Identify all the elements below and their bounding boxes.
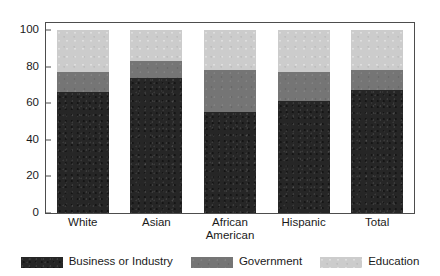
legend-swatch-business [21,257,63,268]
y-tick-label: 20 [26,171,39,183]
bar-segment-business-or-industry [351,90,403,213]
bar-african-american[interactable] [204,30,256,213]
y-tick-mark [46,213,51,214]
legend-swatch-government [191,257,233,268]
y-tick-mark [46,30,51,31]
bar-segment-education [278,30,330,72]
y-tick-label: 40 [26,134,39,146]
y-tick-mark [46,103,51,104]
x-axis-label-line: American [185,229,275,242]
y-axis: 020406080100 [0,30,39,213]
y-tick-mark [46,176,51,177]
bar-segment-education [130,30,182,61]
x-axis-labels: WhiteAsianAfricanAmericanHispanicTotal [46,216,414,250]
bar-segment-education [351,30,403,70]
legend-swatch-education [320,257,362,268]
bar-segment-government [278,72,330,101]
bar-segment-government [351,70,403,90]
bar-segment-government [57,72,109,92]
legend-item[interactable]: Government [191,256,302,268]
y-tick-mark [46,139,51,140]
bar-hispanic[interactable] [278,30,330,213]
bar-segment-business-or-industry [57,92,109,213]
legend-label: Education [368,256,419,268]
bar-white[interactable] [57,30,109,213]
chart-legend: Business or IndustryGovernmentEducation [0,253,440,271]
y-tick-mark [46,66,51,67]
plot-area [46,30,414,213]
legend-label: Business or Industry [69,256,173,268]
y-tick-label: 80 [26,61,39,73]
bar-asian[interactable] [130,30,182,213]
bar-segment-government [130,61,182,77]
bar-segment-education [57,30,109,72]
legend-item[interactable]: Education [320,256,419,268]
x-axis-label-total: Total [332,216,422,229]
legend-item[interactable]: Business or Industry [21,256,173,268]
legend-label: Government [239,256,302,268]
x-axis-label-line: Total [332,216,422,229]
bar-segment-business-or-industry [130,78,182,213]
stacked-bar-chart: 020406080100 WhiteAsianAfricanAmericanHi… [0,0,440,276]
bar-segment-education [204,30,256,70]
y-tick-label: 60 [26,97,39,109]
bar-segment-business-or-industry [278,101,330,213]
bar-segment-business-or-industry [204,112,256,213]
bar-total[interactable] [351,30,403,213]
y-tick-label: 100 [20,24,39,36]
bar-segment-government [204,70,256,112]
